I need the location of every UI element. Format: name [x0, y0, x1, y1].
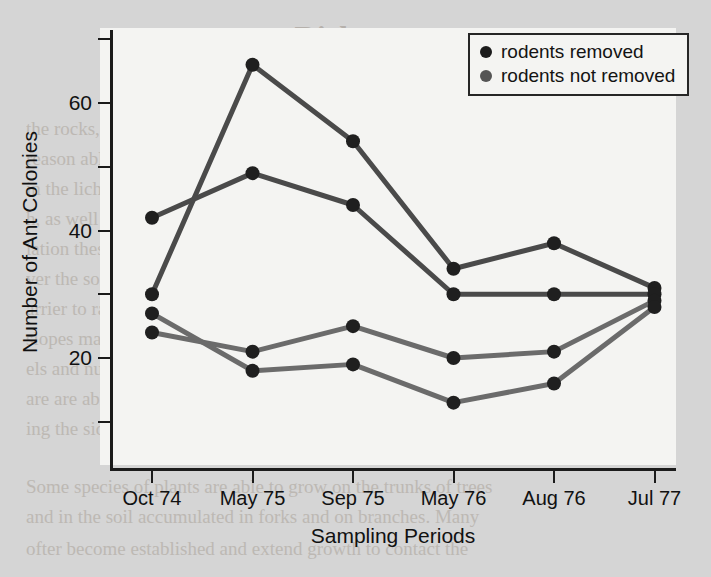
data-point-marker[interactable] — [547, 287, 561, 301]
legend-marker-circle-icon — [480, 46, 492, 58]
data-point-marker[interactable] — [145, 326, 159, 340]
series-line — [152, 173, 655, 294]
legend-item-label: rodents removed — [501, 41, 644, 63]
data-point-marker[interactable] — [547, 345, 561, 359]
legend-item[interactable]: rodents removed — [480, 40, 675, 64]
chart-root: 204060 Oct 74May 75Sep 75May 76Aug 76Jul… — [0, 0, 711, 577]
data-point-marker[interactable] — [346, 198, 360, 212]
data-point-marker[interactable] — [246, 58, 260, 72]
data-point-marker[interactable] — [648, 300, 662, 314]
data-point-marker[interactable] — [447, 351, 461, 365]
series-line — [152, 307, 655, 403]
legend: rodents removed rodents not removed — [468, 33, 689, 96]
data-point-marker[interactable] — [346, 357, 360, 371]
data-point-marker[interactable] — [145, 211, 159, 225]
series-line — [152, 65, 655, 295]
data-point-marker[interactable] — [246, 345, 260, 359]
data-point-marker[interactable] — [145, 306, 159, 320]
data-point-marker[interactable] — [145, 287, 159, 301]
data-point-marker[interactable] — [447, 396, 461, 410]
data-point-marker[interactable] — [447, 262, 461, 276]
legend-item[interactable]: rodents not removed — [480, 64, 675, 88]
series-line — [152, 301, 655, 358]
data-point-marker[interactable] — [547, 236, 561, 250]
data-point-marker[interactable] — [246, 166, 260, 180]
data-point-marker[interactable] — [246, 364, 260, 378]
data-point-marker[interactable] — [547, 377, 561, 391]
data-point-marker[interactable] — [346, 319, 360, 333]
data-point-marker[interactable] — [447, 287, 461, 301]
data-point-marker[interactable] — [346, 134, 360, 148]
legend-marker-circle-icon — [480, 70, 492, 82]
legend-item-label: rodents not removed — [501, 65, 675, 87]
